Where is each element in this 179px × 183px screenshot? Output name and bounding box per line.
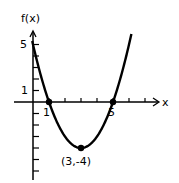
x-axis-label: x: [162, 96, 169, 109]
y-tick-label-1: 1: [21, 84, 28, 97]
marked-points: [46, 99, 116, 151]
parabola-chart: f(x) x 5 1 1 5 (3,-4): [0, 0, 179, 183]
data-point: [46, 99, 52, 105]
x-tick-label-1: 1: [43, 106, 50, 119]
data-point: [110, 99, 116, 105]
x-tick-label-5: 5: [108, 106, 115, 119]
y-axis-label: f(x): [21, 12, 40, 25]
parabola-curve: [32, 34, 131, 148]
data-point: [78, 145, 84, 151]
vertex-label: (3,-4): [61, 155, 91, 168]
y-tick-label-5: 5: [20, 38, 27, 51]
